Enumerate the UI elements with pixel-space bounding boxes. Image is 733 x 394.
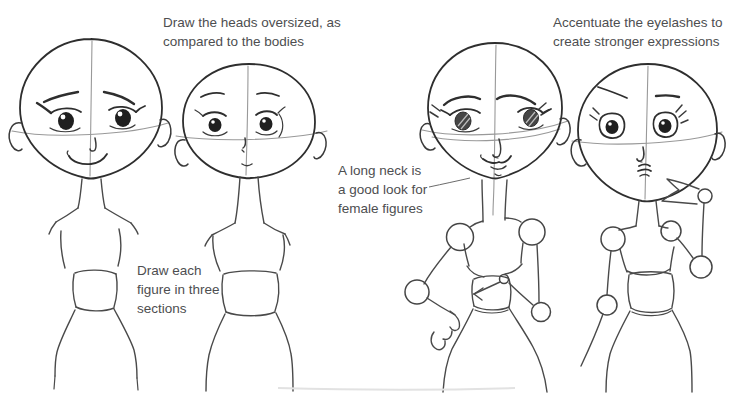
annotation-line: Draw each	[137, 261, 220, 280]
puckered-lips	[638, 165, 651, 177]
right-eye-upper-lid	[256, 111, 277, 115]
left-pupil	[58, 112, 74, 130]
annotation-line: female figures	[338, 199, 427, 218]
annotation-line: a good look for	[338, 180, 427, 199]
head-guide-lines	[422, 45, 568, 215]
right-eyebrow	[656, 95, 679, 97]
right-shoulder-joint	[519, 219, 545, 245]
left-eyebrow	[44, 92, 78, 102]
annotation-line: create stronger expressions	[553, 32, 723, 51]
neck	[636, 201, 639, 226]
right-wrist-joint	[500, 275, 509, 284]
left-elbow-joint	[597, 295, 617, 315]
right-eyebrow	[104, 92, 134, 104]
smile	[69, 154, 107, 164]
left-pupil	[606, 120, 619, 134]
waist-section	[75, 270, 116, 274]
right-wrist-joint	[698, 189, 712, 203]
annotation-eyelashes: Accentuate the eyelashes to create stron…	[553, 13, 723, 51]
annotation-long-neck: A long neck is a good look for female fi…	[338, 161, 427, 218]
sketch-female-worried-round-head	[175, 64, 327, 391]
right-pupil	[115, 109, 131, 127]
right-pupil	[260, 117, 273, 131]
left-eyelash-flick	[37, 103, 51, 113]
neck	[78, 179, 82, 208]
sketch-female-raised-hand-joints	[571, 64, 725, 392]
left-shoulder-joint	[447, 224, 474, 251]
right-pupil	[659, 119, 672, 133]
torso-three-sections	[606, 201, 692, 392]
right-elbow-joint	[690, 256, 712, 278]
hip-section	[443, 309, 473, 392]
left-pupil	[209, 118, 222, 132]
head-outline	[183, 64, 315, 178]
left-elbow-joint	[405, 280, 429, 304]
page-bottom-smudge	[278, 388, 515, 390]
waist-arrow	[474, 282, 500, 300]
right-eyebrow	[257, 93, 279, 96]
shoulders	[212, 223, 235, 235]
hip-section	[606, 311, 630, 392]
annotation-three-sections: Draw each figure in three sections	[137, 261, 220, 318]
jointed-arms	[405, 219, 551, 350]
mouth	[242, 164, 252, 166]
annotation-line: A long neck is	[338, 161, 427, 180]
long-neck	[482, 180, 483, 222]
left-eyelashes	[593, 108, 599, 114]
right-eyebrow	[497, 96, 535, 104]
head-guide-lines	[12, 41, 168, 176]
sketch-female-hand-on-hip-joints	[405, 43, 570, 392]
left-eye-lower-lid	[203, 132, 227, 136]
neck-pointer-line	[429, 178, 470, 187]
annotation-line: compared to the bodies	[163, 32, 341, 51]
left-forearm	[427, 298, 455, 315]
right-elbow-joint	[532, 303, 551, 322]
torso-three-sections	[49, 179, 138, 390]
ears	[175, 133, 326, 166]
right-upper-arm	[677, 238, 693, 258]
left-shoulder-joint	[601, 227, 625, 251]
face-features	[590, 87, 688, 176]
torso-three-sections	[443, 180, 547, 392]
annotation-line: Accentuate the eyelashes to	[553, 13, 723, 32]
tutorial-page: Draw the heads oversized, as compared to…	[0, 0, 733, 394]
right-eye-outer-curve	[279, 114, 283, 137]
right-eyelash-flick	[136, 106, 145, 112]
shoulders	[56, 208, 78, 222]
right-shoulder-joint	[661, 221, 681, 241]
hip-section	[55, 310, 75, 376]
right-eyelash-accents	[539, 103, 546, 109]
left-upper-arm	[607, 251, 611, 295]
right-forearm	[702, 203, 704, 256]
ears	[571, 133, 725, 166]
left-eye-upper-lid	[203, 112, 226, 116]
long-neck	[235, 177, 240, 223]
annotation-heads-oversized: Draw the heads oversized, as compared to…	[163, 13, 341, 51]
sketch-female-confident-large-head	[9, 39, 171, 390]
annotation-line: sections	[137, 299, 220, 318]
right-upper-arm	[537, 245, 539, 302]
left-eyebrow	[201, 93, 224, 97]
lower-lip	[491, 166, 506, 169]
left-forearm	[581, 314, 603, 366]
annotation-line: figure in three	[137, 280, 220, 299]
right-forearm	[509, 283, 533, 305]
right-eye-lower-lid	[256, 131, 277, 135]
right-eyelashes	[676, 105, 682, 112]
waist-section	[224, 271, 276, 274]
hip-section	[206, 314, 225, 391]
chest-section	[620, 249, 627, 272]
chest-section	[61, 231, 65, 268]
nose	[637, 147, 644, 161]
left-eyebrow	[598, 87, 627, 98]
left-eyelash-accents	[432, 105, 440, 111]
face-features	[195, 93, 285, 166]
left-upper-arm	[424, 247, 451, 284]
left-eyebrow	[444, 97, 480, 105]
annotation-line: Draw the heads oversized, as	[163, 13, 341, 32]
left-eyelash-flick	[195, 110, 203, 116]
